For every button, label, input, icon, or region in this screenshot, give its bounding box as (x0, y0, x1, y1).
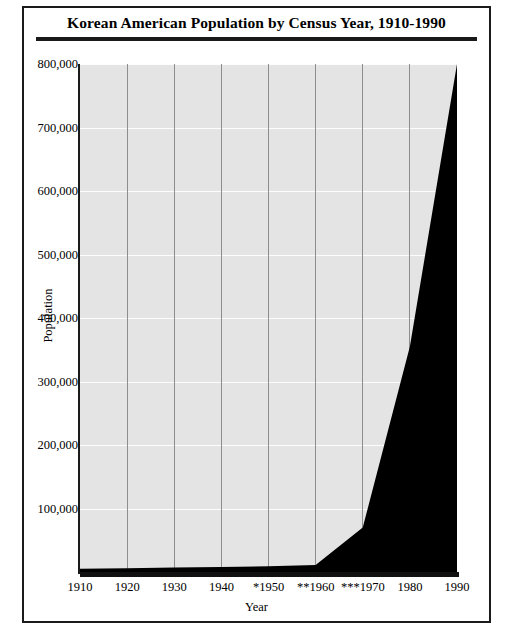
x-axis-tick-label: 1920 (115, 580, 140, 595)
y-axis-label: Population (41, 271, 56, 361)
y-axis-tick-label: 800,000 (26, 57, 78, 72)
chart-title: Korean American Population by Census Yea… (24, 14, 489, 32)
y-axis-line (78, 64, 80, 574)
x-axis-line (80, 572, 459, 577)
x-axis-tick-label: 1910 (68, 580, 93, 595)
y-axis-tick-label: 200,000 (26, 438, 78, 453)
x-axis-tick-label: ***1970 (341, 580, 385, 595)
plot-area (80, 64, 457, 572)
x-axis-tick-label: 1980 (397, 580, 422, 595)
x-axis-tick-label: **1960 (297, 580, 335, 595)
chart-figure: Korean American Population by Census Yea… (22, 6, 491, 623)
y-axis-tick-label: 700,000 (26, 120, 78, 135)
x-axis-tick-label: *1950 (253, 580, 284, 595)
y-axis-tick-label: 300,000 (26, 374, 78, 389)
y-axis-tick-label: 500,000 (26, 247, 78, 262)
y-axis-tick-label: 100,000 (26, 501, 78, 516)
y-axis-tick-label: 600,000 (26, 184, 78, 199)
x-axis-tick-label: 1930 (162, 580, 187, 595)
x-axis-tick-label: 1940 (209, 580, 234, 595)
x-axis-tick-label: 1990 (445, 580, 470, 595)
x-axis-label: Year (24, 600, 489, 615)
population-area-series (80, 64, 457, 572)
title-divider (36, 37, 477, 41)
